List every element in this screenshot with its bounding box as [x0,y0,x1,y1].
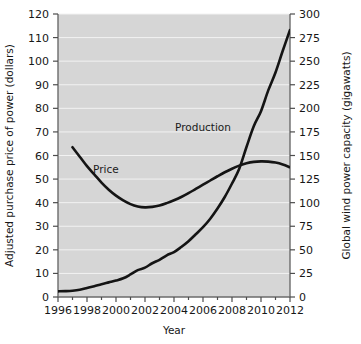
y-axis-right-tick-label: 125 [299,173,320,186]
x-axis-title: Year [162,324,186,336]
y-axis-left-tick-label: 10 [35,267,49,280]
y-axis-right-tick-label: 200 [299,102,320,115]
y-axis-right-tick-label: 100 [299,197,320,210]
x-axis-tick-label: 2008 [218,304,246,317]
y-axis-right-tick-label: 225 [299,79,320,92]
y-axis-right-tick-label: 25 [299,267,313,280]
y-axis-left-tick-label: 0 [42,291,49,304]
x-axis-tick-label: 2010 [247,304,275,317]
y-axis-right-tick-label: 150 [299,150,320,163]
y-axis-left-tick-label: 20 [35,244,49,257]
y-axis-right-tick-label: 250 [299,55,320,68]
x-axis-tick-label: 1996 [44,304,72,317]
y-axis-left-tick-label: 30 [35,220,49,233]
y-axis-right-tick-label: 50 [299,244,313,257]
y-axis-right-tick-label: 0 [299,291,306,304]
x-axis-tick-label: 2002 [131,304,159,317]
x-axis-tick-label: 2006 [189,304,217,317]
y-axis-left-tick-label: 110 [28,32,49,45]
y-axis-left-tick-label: 80 [35,102,49,115]
y-axis-right-tick-label: 275 [299,32,320,45]
y-axis-right-tick-label: 300 [299,8,320,21]
x-axis-tick-label: 2012 [276,304,304,317]
y-axis-right-tick-label: 175 [299,126,320,139]
x-axis-tick-label: 1998 [73,304,101,317]
y-axis-left-tick-label: 40 [35,197,49,210]
x-axis-tick-label: 2000 [102,304,130,317]
y-axis-right-title: Global wind power capacity (gigawatts) [340,51,352,259]
chart-canvas: 0102030405060708090100110120 02550751001… [0,0,361,344]
y-axis-left-tick-label: 120 [28,8,49,21]
chart-figure: 0102030405060708090100110120 02550751001… [0,0,361,344]
annotation-price: Price [93,163,119,175]
y-axis-left-title: Adjusted purchase price of power (dollar… [3,44,15,267]
y-axis-left-tick-label: 90 [35,79,49,92]
y-axis-left-tick-label: 70 [35,126,49,139]
y-axis-left-tick-label: 60 [35,150,49,163]
y-axis-left-tick-label: 100 [28,55,49,68]
y-axis-right-tick-label: 75 [299,220,313,233]
annotation-production: Production [175,121,231,133]
x-axis-tick-label: 2004 [160,304,188,317]
y-axis-left-tick-label: 50 [35,173,49,186]
